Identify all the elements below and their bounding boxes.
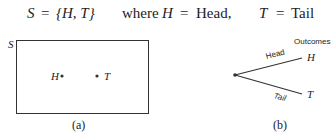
set-s-label: S [8, 38, 14, 50]
branch-tail-line [235, 75, 302, 94]
outcome-t-label: T [307, 88, 313, 100]
point-h-dot [60, 74, 63, 77]
point-h-label: H [51, 70, 59, 82]
branch-head-line [235, 58, 302, 75]
caption-b: (b) [273, 118, 287, 133]
caption-a: (a) [72, 118, 85, 133]
point-t-dot [95, 74, 98, 77]
diagram-graphics [0, 0, 336, 135]
sample-space-rect [17, 41, 149, 114]
point-t-label: T [104, 70, 110, 82]
outcomes-header: Outcomes [294, 37, 330, 46]
outcome-h-label: H [307, 51, 315, 63]
